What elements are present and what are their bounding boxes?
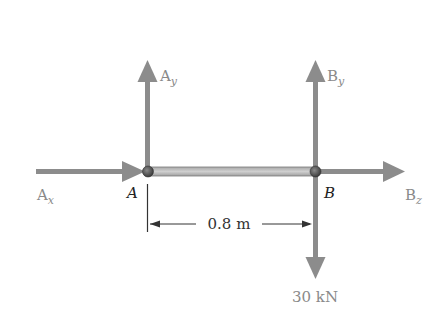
label-by: By	[327, 67, 345, 88]
label-30kn: 30 kN	[292, 288, 338, 306]
force-arrow-ay	[138, 60, 158, 172]
free-body-diagram: Ay By Ax Bz A B 0.8 m 30 kN	[0, 0, 445, 321]
pin-a	[143, 166, 154, 177]
point-label-a: A	[125, 184, 138, 202]
force-arrow-bz	[318, 161, 405, 182]
force-arrow-ax	[36, 161, 145, 182]
label-bz: Bz	[405, 186, 422, 207]
label-ax: Ax	[36, 186, 55, 207]
force-arrow-by	[306, 60, 326, 172]
pin-b	[310, 166, 321, 177]
force-arrow-30kn	[306, 172, 326, 279]
label-ay: Ay	[159, 67, 178, 88]
dimension-label: 0.8 m	[208, 215, 251, 233]
beam	[148, 167, 316, 176]
point-label-b: B	[323, 184, 335, 202]
